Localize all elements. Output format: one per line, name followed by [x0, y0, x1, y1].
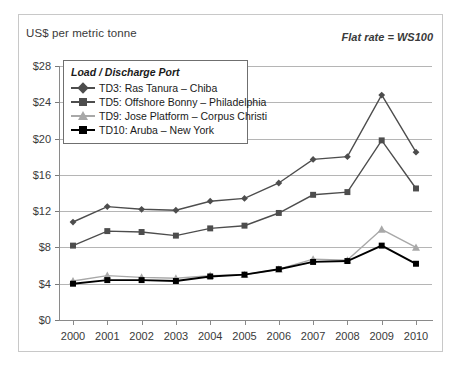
legend-item: TD9: Jose Platform – Corpus Christi	[71, 109, 240, 123]
series-2	[70, 137, 419, 248]
legend-item: TD10: Aruba – New York	[71, 123, 240, 137]
data-point-marker	[70, 281, 76, 287]
legend-diamond-icon	[71, 82, 95, 94]
legend-square-icon	[71, 124, 95, 136]
legend-item: TD5: Offshore Bonny – Philadelphia	[71, 95, 240, 109]
data-point-marker	[344, 258, 350, 264]
data-point-marker	[207, 273, 213, 279]
data-point-marker	[378, 225, 386, 232]
data-point-marker	[310, 192, 316, 198]
data-point-marker	[344, 189, 350, 195]
legend-title: Load / Discharge Port	[71, 66, 240, 78]
data-point-marker	[104, 203, 111, 210]
data-point-marker	[173, 278, 179, 284]
data-point-marker	[70, 243, 76, 249]
data-point-marker	[344, 153, 351, 160]
data-point-marker	[413, 261, 419, 267]
data-point-marker	[242, 272, 248, 278]
data-point-marker	[104, 228, 110, 234]
data-point-marker	[378, 92, 385, 99]
series-line	[73, 140, 416, 245]
legend-item: TD3: Ras Tanura – Chiba	[71, 81, 240, 95]
chart-figure: US$ per metric tonne Flat rate = WS100 $…	[0, 0, 461, 366]
legend-square-icon	[71, 96, 95, 108]
data-point-marker	[379, 243, 385, 249]
data-point-marker	[412, 243, 420, 250]
legend-items: TD3: Ras Tanura – ChibaTD5: Offshore Bon…	[71, 81, 240, 137]
data-point-marker	[241, 195, 248, 202]
data-point-marker	[173, 233, 179, 239]
legend-triangle-icon	[71, 110, 95, 122]
chart-legend: Load / Discharge Port TD3: Ras Tanura – …	[63, 60, 248, 144]
series-plot-area	[0, 0, 461, 366]
data-point-marker	[276, 210, 282, 216]
legend-item-label: TD3: Ras Tanura – Chiba	[99, 82, 217, 94]
legend-item-label: TD5: Offshore Bonny – Philadelphia	[99, 96, 266, 108]
data-point-marker	[413, 149, 420, 156]
data-point-marker	[242, 223, 248, 229]
data-point-marker	[104, 277, 110, 283]
data-point-marker	[70, 219, 77, 226]
legend-item-label: TD9: Jose Platform – Corpus Christi	[99, 110, 267, 122]
data-point-marker	[276, 266, 282, 272]
data-point-marker	[310, 259, 316, 265]
data-point-marker	[413, 185, 419, 191]
data-point-marker	[379, 137, 385, 143]
series-4	[70, 243, 419, 287]
data-point-marker	[173, 207, 180, 214]
data-point-marker	[207, 225, 213, 231]
data-point-marker	[139, 277, 145, 283]
data-point-marker	[207, 198, 214, 205]
data-point-marker	[139, 229, 145, 235]
data-point-marker	[138, 206, 145, 213]
legend-item-label: TD10: Aruba – New York	[99, 124, 214, 136]
